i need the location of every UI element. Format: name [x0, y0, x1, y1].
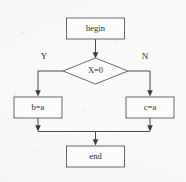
arrow-head-icon [147, 90, 153, 96]
edge-begin-to-decision [93, 39, 99, 59]
edge-label-no: N [142, 51, 149, 61]
arrow-head-icon [35, 125, 41, 131]
flowchart-diagram: begin X=0 Y N b=a c=a end [0, 0, 186, 182]
edge-decision-to-false-branch [128, 71, 153, 97]
begin-label: begin [86, 23, 106, 33]
arrow-head-icon [93, 139, 99, 145]
edge-false-branch-to-merge [147, 118, 153, 132]
flowchart-canvas: begin X=0 Y N b=a c=a end [0, 0, 186, 182]
edge-decision-to-true-branch [35, 71, 63, 97]
node-true-branch: b=a [14, 97, 62, 118]
node-decision: X=0 [63, 58, 128, 84]
arrow-head-icon [35, 90, 41, 96]
end-label: end [89, 151, 102, 161]
true-branch-label: b=a [32, 102, 45, 112]
false-branch-label: c=a [144, 102, 157, 112]
edge-label-yes: Y [41, 51, 48, 61]
arrow-head-icon [147, 125, 153, 131]
node-begin: begin [67, 18, 125, 39]
node-end: end [67, 146, 125, 167]
edge-merge-to-end [93, 132, 99, 146]
node-false-branch: c=a [126, 97, 174, 118]
decision-label: X=0 [88, 65, 103, 75]
edge-true-branch-to-merge [35, 118, 41, 132]
